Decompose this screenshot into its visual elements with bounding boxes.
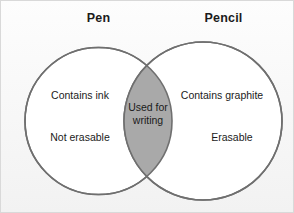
left-set-item: Contains ink [0,89,160,101]
overlap-label-line-2: writing [118,114,178,127]
venn-label-layer: Pen Pencil Contains ink Not erasable Con… [0,0,294,213]
right-set-item: Erasable [152,131,294,143]
right-set-title: Pencil [125,11,294,25]
venn-diagram-figure: Pen Pencil Contains ink Not erasable Con… [0,0,294,213]
right-set-item: Contains graphite [142,89,294,101]
overlap-label-line-1: Used for [118,101,178,114]
overlap-label: Used for writing [118,101,178,127]
left-set-item: Not erasable [0,131,160,143]
